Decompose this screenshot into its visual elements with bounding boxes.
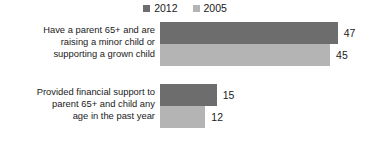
bar-2005: [160, 44, 330, 66]
legend-item-2012: 2012: [143, 3, 177, 14]
legend-item-2005: 2005: [193, 3, 227, 14]
bar-group: Have a parent 65+ and are raising a mino…: [0, 22, 370, 69]
chart-legend: 2012 2005: [0, 3, 370, 14]
category-label-line: parent 65+ and child any: [10, 98, 155, 110]
bar-2012: [160, 22, 338, 44]
plot-area: Have a parent 65+ and are raising a mino…: [0, 22, 370, 143]
bar-2005: [160, 106, 205, 128]
category-label-line: age in the past year: [10, 110, 155, 122]
category-label-line: raising a minor child or: [10, 36, 155, 48]
bar-value-label: 12: [211, 112, 223, 123]
bar-group: Provided financial support to parent 65+…: [0, 84, 370, 131]
legend-label: 2012: [154, 3, 177, 14]
category-label: Have a parent 65+ and are raising a mino…: [10, 24, 155, 61]
category-label-line: supporting a grown child: [10, 48, 155, 60]
category-label-line: Have a parent 65+ and are: [10, 24, 155, 36]
grouped-bar-chart: 2012 2005 Have a parent 65+ and are rais…: [0, 0, 370, 143]
bar-value-label: 45: [336, 50, 348, 61]
legend-label: 2005: [204, 3, 227, 14]
bar-value-label: 47: [344, 28, 356, 39]
category-label: Provided financial support to parent 65+…: [10, 86, 155, 123]
square-swatch-icon: [143, 5, 150, 12]
bar-2012: [160, 84, 217, 106]
bar-value-label: 15: [223, 90, 235, 101]
category-label-line: Provided financial support to: [10, 86, 155, 98]
square-swatch-icon: [193, 5, 200, 12]
